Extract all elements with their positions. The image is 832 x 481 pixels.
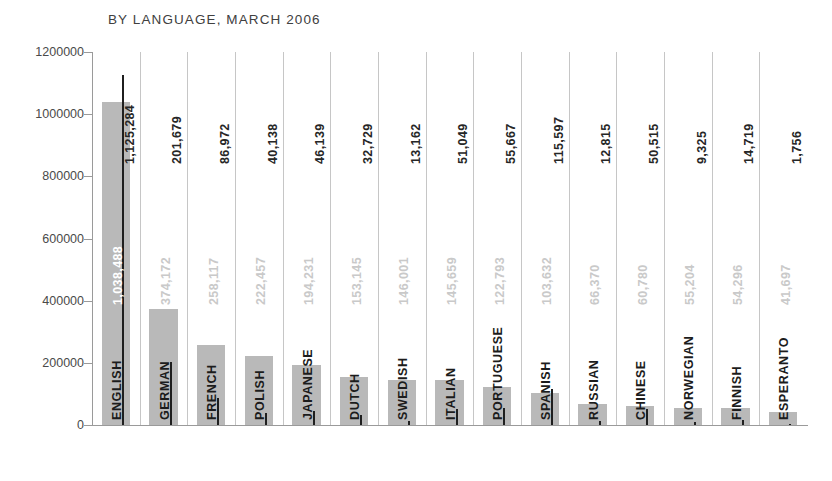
x-axis-line (92, 425, 808, 426)
category-panel[interactable]: 201,679374,172GERMAN (140, 52, 188, 425)
y-axis-tick-label: 1200000 (35, 45, 84, 59)
line-series-marker[interactable] (742, 420, 744, 425)
value-label-series-1: 222,457 (254, 257, 268, 305)
category-panel[interactable]: 55,667122,793PORTUGUESE (473, 52, 521, 425)
value-label-series-2: 12,815 (599, 123, 613, 164)
value-label-series-1: 145,659 (445, 257, 459, 305)
category-panel[interactable]: 46,139194,231JAPANESE (283, 52, 331, 425)
y-axis-tick-label: 0 (77, 418, 84, 432)
category-label-spanish: SPANISH (539, 361, 553, 420)
y-axis-tick (84, 176, 92, 177)
plot-area: 1,125,2841,038,488ENGLISH201,679374,172G… (92, 52, 807, 425)
category-panel[interactable]: 51,049145,659ITALIAN (426, 52, 474, 425)
value-label-series-1: 60,780 (636, 264, 650, 305)
category-label-portuguese: PORTUGUESE (491, 326, 505, 420)
line-series-marker[interactable] (408, 421, 410, 425)
category-panel[interactable]: 86,972258,117FRENCH (187, 52, 235, 425)
y-axis-labels: 120000010000008000006000004000002000000 (10, 52, 84, 425)
category-label-swedish: SWEDISH (396, 357, 410, 420)
value-label-series-2: 1,125,284 (123, 105, 137, 164)
y-axis-tick (84, 114, 92, 115)
value-label-series-2: 51,049 (456, 123, 470, 164)
value-label-series-1: 103,632 (540, 257, 554, 305)
value-label-series-1: 41,697 (779, 264, 793, 305)
category-panel[interactable]: 1,125,2841,038,488ENGLISH (92, 52, 140, 425)
value-label-series-1: 55,204 (683, 264, 697, 305)
line-series-marker[interactable] (599, 421, 601, 425)
value-label-series-1: 146,001 (397, 257, 411, 305)
value-label-series-1: 374,172 (159, 257, 173, 305)
y-axis-tick (84, 52, 92, 53)
category-panel[interactable]: 50,51560,780CHINESE (616, 52, 664, 425)
line-series-marker[interactable] (789, 424, 791, 425)
category-label-french: FRENCH (205, 364, 219, 420)
category-label-norwegian: NORWEGIAN (682, 336, 696, 420)
value-label-series-2: 13,162 (409, 123, 423, 164)
y-axis-tick-label: 400000 (42, 294, 84, 308)
value-label-series-2: 86,972 (218, 123, 232, 164)
value-label-series-1: 1,038,488 (111, 246, 125, 305)
y-axis-tick (84, 301, 92, 302)
line-series-marker[interactable] (694, 422, 696, 425)
chart-title: BY LANGUAGE, MARCH 2006 (108, 12, 321, 27)
category-panel[interactable]: 115,597103,632SPANISH (521, 52, 569, 425)
category-panel[interactable]: 14,71954,296FINNISH (712, 52, 760, 425)
value-label-series-1: 54,296 (731, 264, 745, 305)
value-label-series-2: 32,729 (361, 123, 375, 164)
category-label-dutch: DUTCH (348, 373, 362, 420)
category-panel[interactable]: 9,32555,204NORWEGIAN (664, 52, 712, 425)
category-panel[interactable]: 13,162146,001SWEDISH (378, 52, 426, 425)
category-panels: 1,125,2841,038,488ENGLISH201,679374,172G… (92, 52, 807, 425)
y-axis-tick (84, 363, 92, 364)
category-panel[interactable]: 12,81566,370RUSSIAN (569, 52, 617, 425)
value-label-series-1: 258,117 (207, 258, 221, 305)
value-label-series-1: 194,231 (302, 257, 316, 305)
category-label-finnish: FINNISH (730, 366, 744, 420)
category-label-russian: RUSSIAN (587, 360, 601, 420)
category-label-esperanto: ESPERANTO (777, 337, 791, 420)
value-label-series-2: 201,679 (170, 116, 184, 164)
category-label-polish: POLISH (253, 370, 267, 420)
y-axis-tick-label: 1000000 (35, 107, 84, 121)
value-label-series-1: 153,145 (350, 257, 364, 305)
category-label-german: GERMAN (158, 361, 172, 420)
value-label-series-2: 1,756 (790, 131, 804, 164)
y-axis-tick (84, 239, 92, 240)
value-label-series-2: 55,667 (504, 123, 518, 164)
category-label-japanese: JAPANESE (301, 349, 315, 420)
value-label-series-2: 46,139 (313, 123, 327, 164)
chart-root: BY LANGUAGE, MARCH 2006 1200000100000080… (0, 0, 832, 481)
value-label-series-2: 50,515 (647, 123, 661, 164)
category-label-english: ENGLISH (110, 360, 124, 420)
y-axis-tick-label: 800000 (42, 169, 84, 183)
category-panel[interactable]: 1,75641,697ESPERANTO (759, 52, 807, 425)
category-label-chinese: CHINESE (634, 360, 648, 420)
category-label-italian: ITALIAN (444, 367, 458, 420)
value-label-series-2: 40,138 (266, 123, 280, 164)
y-axis-tick (84, 425, 92, 426)
category-panel[interactable]: 32,729153,145DUTCH (330, 52, 378, 425)
value-label-series-2: 115,597 (552, 117, 566, 164)
y-axis-tick-label: 600000 (42, 232, 84, 246)
value-label-series-2: 9,325 (695, 131, 709, 164)
value-label-series-2: 14,719 (742, 123, 756, 164)
value-label-series-1: 66,370 (588, 264, 602, 305)
y-axis-tick-label: 200000 (42, 356, 84, 370)
value-label-series-1: 122,793 (493, 257, 507, 305)
category-panel[interactable]: 40,138222,457POLISH (235, 52, 283, 425)
